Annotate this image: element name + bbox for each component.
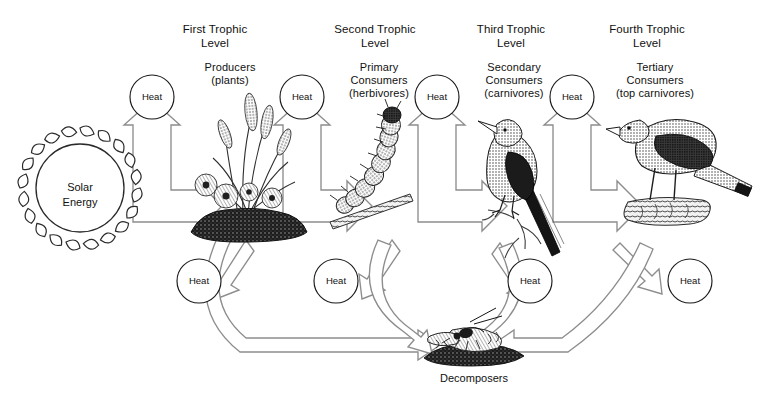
heat-label-bottom-1: Heat xyxy=(179,276,219,286)
log-perch xyxy=(624,197,710,225)
heat-label-top-1: Heat xyxy=(132,92,172,102)
arrow-solar-to-producers xyxy=(124,100,222,231)
bird-eye xyxy=(503,128,506,131)
energy-flow-diagram: First Trophic Level Second Trophic Level… xyxy=(0,0,768,410)
illustration-primary-consumer xyxy=(330,99,413,229)
caterpillar-head xyxy=(383,107,401,123)
decomposers-label: Decomposers xyxy=(414,372,534,384)
heat-label-top-4: Heat xyxy=(552,92,592,102)
hawk-eye xyxy=(627,126,631,130)
arrow-primary-to-decomposers xyxy=(369,240,432,354)
heat-label-bottom-3: Heat xyxy=(510,276,550,286)
arrow-producers-to-primary xyxy=(274,100,372,231)
heat-label-top-3: Heat xyxy=(417,92,457,102)
illustration-secondary-consumer xyxy=(478,119,564,258)
hawk-head xyxy=(619,120,649,143)
solar-energy-label: Solar Energy xyxy=(40,180,120,210)
illustration-tertiary-consumer xyxy=(606,120,752,226)
bird-beak xyxy=(478,121,497,134)
heat-label-bottom-2: Heat xyxy=(316,276,356,286)
bird-head xyxy=(494,119,522,146)
heat-label-top-2: Heat xyxy=(282,92,322,102)
hawk-beak xyxy=(606,127,620,136)
heat-label-bottom-4: Heat xyxy=(670,276,710,286)
